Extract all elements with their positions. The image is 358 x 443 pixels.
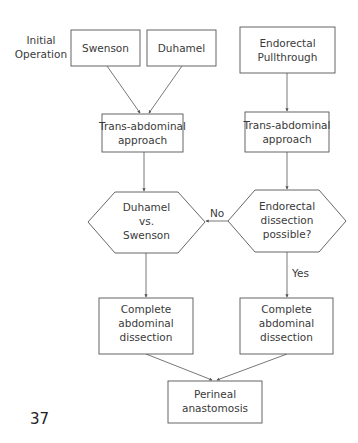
initial-operation-label: Initial Operation	[15, 34, 67, 60]
node-perineal-line-2: anastomosis	[182, 402, 248, 414]
node-endorectal-pullthrough: Endorectal Pullthrough	[240, 27, 335, 73]
page-number: 37	[30, 410, 49, 428]
node-complete-dissection-right: Complete abdominal dissection	[240, 298, 333, 354]
node-decision-right-line-1: Endorectal	[259, 200, 315, 212]
node-complete-left-line-3: dissection	[120, 331, 173, 343]
node-swenson-label: Swenson	[82, 42, 129, 54]
edge-complete-left-to-perineal	[146, 354, 212, 380]
edge-label-yes: Yes	[291, 267, 309, 279]
node-trans-left-line-2: approach	[118, 134, 167, 146]
node-decision-right-line-3: possible?	[263, 228, 312, 240]
edge-label-no: No	[210, 207, 224, 219]
node-complete-right-line-3: dissection	[260, 331, 313, 343]
node-decision-endorectal-possible: Endorectal dissection possible?	[228, 190, 346, 252]
node-perineal-line-1: Perineal	[194, 388, 236, 400]
node-decision-left-line-3: Swenson	[123, 229, 170, 241]
node-trans-abdominal-right: Trans-abdominal approach	[243, 112, 331, 152]
node-complete-right-line-1: Complete	[261, 303, 312, 315]
node-complete-dissection-left: Complete abdominal dissection	[99, 298, 193, 354]
edge-complete-right-to-perineal	[217, 354, 287, 380]
node-decision-right-line-2: dissection	[261, 214, 314, 226]
node-decision-left-line-2: vs.	[139, 215, 154, 227]
node-duhamel-label: Duhamel	[158, 42, 205, 54]
node-decision-duhamel-vs-swenson: Duhamel vs. Swenson	[88, 192, 205, 253]
initial-operation-line-2: Operation	[15, 48, 67, 60]
node-trans-right-line-1: Trans-abdominal	[243, 119, 331, 131]
node-complete-right-line-2: abdominal	[259, 317, 314, 329]
node-endorectal-line-2: Pullthrough	[258, 51, 318, 63]
node-perineal-anastomosis: Perineal anastomosis	[168, 381, 262, 423]
node-complete-left-line-2: abdominal	[118, 317, 173, 329]
node-duhamel: Duhamel	[147, 30, 216, 66]
node-swenson: Swenson	[71, 30, 140, 66]
node-trans-abdominal-left: Trans-abdominal approach	[98, 114, 186, 152]
flowchart: Initial Operation Swenson Duhamel Endore…	[0, 0, 358, 443]
node-endorectal-line-1: Endorectal	[259, 37, 315, 49]
edge-duhamel-to-trans-left	[149, 66, 182, 113]
node-trans-right-line-2: approach	[262, 133, 311, 145]
node-decision-left-line-1: Duhamel	[123, 201, 170, 213]
edge-swenson-to-trans-left	[107, 66, 140, 113]
node-complete-left-line-1: Complete	[121, 303, 172, 315]
initial-operation-line-1: Initial	[26, 34, 55, 46]
node-trans-left-line-1: Trans-abdominal	[98, 120, 186, 132]
